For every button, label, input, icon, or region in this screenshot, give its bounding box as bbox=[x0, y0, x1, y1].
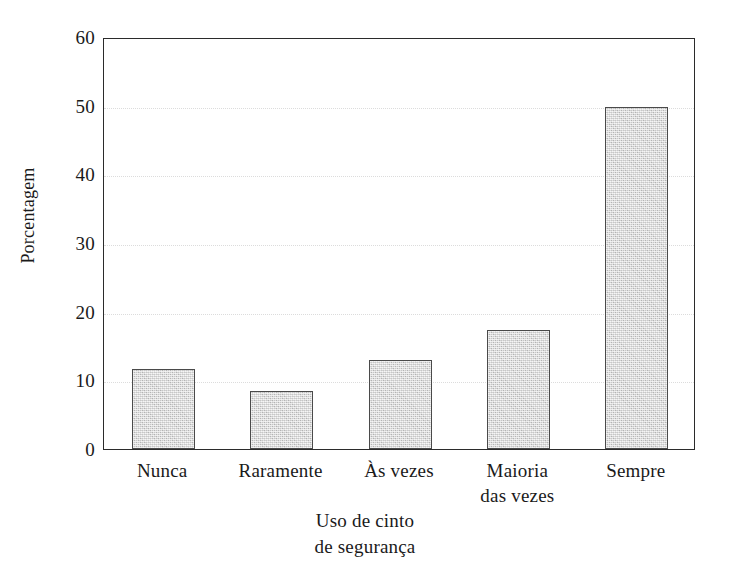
x-category-label: Às vezes bbox=[340, 458, 458, 483]
y-tick-label-20: 20 bbox=[53, 303, 95, 322]
bar bbox=[605, 107, 668, 449]
y-axis-title: Porcentagem bbox=[18, 146, 39, 286]
bar bbox=[250, 391, 313, 449]
plot-area bbox=[103, 38, 695, 450]
y-tick-label-60: 60 bbox=[53, 28, 95, 47]
x-category-label: Nunca bbox=[103, 458, 221, 483]
bar-chart-figure: Porcentagem 0102030405060 NuncaRaramente… bbox=[0, 0, 730, 580]
y-tick-label-0: 0 bbox=[53, 440, 95, 459]
bar bbox=[132, 369, 195, 449]
x-category-label: Sempre bbox=[577, 458, 695, 483]
x-category-label: Raramente bbox=[221, 458, 339, 483]
bar bbox=[369, 360, 432, 449]
bar bbox=[487, 330, 550, 449]
x-category-label: Maioria das vezes bbox=[458, 458, 576, 508]
y-axis-tick-labels: 0102030405060 bbox=[50, 0, 95, 580]
x-axis-title: Uso de cinto de segurança bbox=[0, 508, 730, 560]
y-tick-label-10: 10 bbox=[53, 371, 95, 390]
y-tick-label-40: 40 bbox=[53, 165, 95, 184]
y-tick-label-30: 30 bbox=[53, 234, 95, 253]
y-tick-label-50: 50 bbox=[53, 97, 95, 116]
